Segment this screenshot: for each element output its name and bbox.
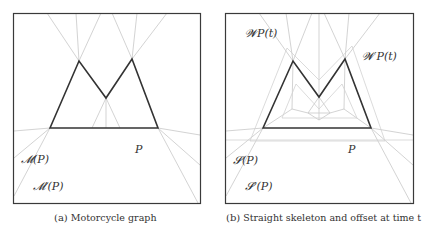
- polygon-p: [50, 59, 158, 128]
- caption-a-text: Motorcycle graph: [71, 212, 157, 223]
- label-polygon-p: P: [348, 143, 355, 156]
- label-s-of-p: 𝓢(P): [233, 154, 258, 167]
- label-polygon-p: P: [135, 143, 142, 156]
- label-s-prime-of-p: 𝓢′(P): [245, 180, 272, 193]
- panel-motorcycle-graph: 𝓜(P) 𝓜′(P) P (a) Motorcycle graph: [0, 0, 212, 235]
- bounding-frame: [14, 14, 201, 204]
- caption-a: (a) Motorcycle graph: [54, 212, 157, 223]
- label-m-prime-of-p: 𝓜′(P): [33, 180, 63, 193]
- caption-b: (b) Straight skeleton and offset at time…: [226, 212, 421, 223]
- caption-a-tag: (a): [54, 212, 68, 223]
- straight-skeleton-figure: [212, 0, 425, 235]
- caption-b-text: Straight skeleton and offset at time t: [243, 212, 421, 223]
- motorcycle-rays: [14, 13, 200, 203]
- label-wavefront-w-p-t: 𝓦P(t): [245, 27, 277, 40]
- label-wavefront-w-prime-p-t: 𝓦′P(t): [362, 50, 397, 63]
- label-m-of-p: 𝓜(P): [21, 153, 49, 166]
- panel-straight-skeleton: 𝓦P(t) 𝓦′P(t) 𝓢(P) 𝓢′(P) P (b) Straight s…: [212, 0, 425, 235]
- motorcycle-graph-figure: [0, 0, 212, 235]
- caption-b-tag: (b): [226, 212, 240, 223]
